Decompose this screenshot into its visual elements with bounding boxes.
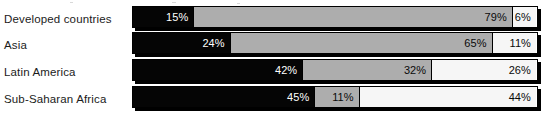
bar-segment-light: 44%: [359, 87, 536, 107]
bar-segment-mid: 65%: [230, 33, 492, 53]
stacked-bar-chart: Developed countries15%79%6%Asia24%65%11%…: [0, 0, 550, 116]
category-label: Developed countries: [4, 6, 128, 32]
bar-segment-dark: 45%: [133, 87, 314, 107]
scan-artifact: [237, 3, 240, 4]
segment-value-label: 11%: [332, 91, 354, 103]
bar-segment-mid: 79%: [193, 7, 511, 27]
category-label: Asia: [4, 32, 128, 58]
segment-value-label: 42%: [275, 64, 297, 76]
bar-container: 45%11%44%: [132, 86, 538, 108]
stacked-bar: 42%32%26%: [132, 59, 538, 81]
bar-segment-dark: 42%: [133, 60, 302, 80]
segment-value-label: 26%: [509, 64, 531, 76]
bar-segment-mid: 11%: [314, 87, 358, 107]
segment-value-label: 11%: [509, 37, 531, 49]
scan-artifact: [172, 2, 176, 3]
bar-segment-dark: 15%: [133, 7, 193, 27]
category-label: Latin America: [4, 59, 128, 85]
segment-value-label: 6%: [515, 11, 531, 23]
segment-value-label: 79%: [484, 11, 506, 23]
chart-row: Sub-Saharan Africa45%11%44%: [0, 86, 550, 112]
chart-row: Latin America42%32%26%: [0, 59, 550, 85]
segment-value-label: 65%: [464, 37, 486, 49]
segment-value-label: 44%: [509, 91, 531, 103]
bar-segment-dark: 24%: [133, 33, 230, 53]
bar-container: 15%79%6%: [132, 6, 538, 28]
segment-value-label: 15%: [166, 11, 188, 23]
bar-segment-light: 26%: [431, 60, 536, 80]
chart-row: Developed countries15%79%6%: [0, 6, 550, 32]
category-label: Sub-Saharan Africa: [4, 86, 128, 112]
bar-segment-mid: 32%: [302, 60, 431, 80]
bar-segment-light: 6%: [512, 7, 536, 27]
bar-segment-light: 11%: [492, 33, 536, 53]
chart-row: Asia24%65%11%: [0, 32, 550, 58]
bar-container: 24%65%11%: [132, 32, 538, 54]
scan-artifact: [70, 2, 73, 3]
stacked-bar: 45%11%44%: [132, 86, 538, 108]
segment-value-label: 32%: [404, 64, 426, 76]
bar-container: 42%32%26%: [132, 59, 538, 81]
segment-value-label: 45%: [287, 91, 309, 103]
stacked-bar: 24%65%11%: [132, 32, 538, 54]
stacked-bar: 15%79%6%: [132, 6, 538, 28]
segment-value-label: 24%: [202, 37, 224, 49]
